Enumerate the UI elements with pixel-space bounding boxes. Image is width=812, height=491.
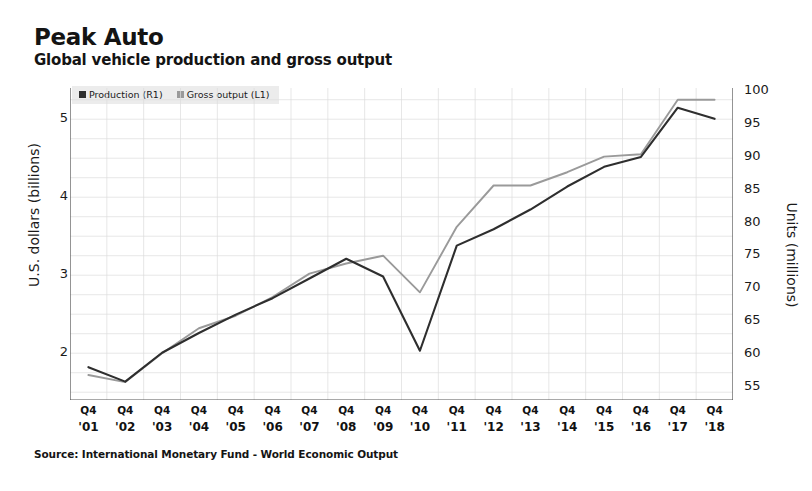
y-tick-left-2: 2 bbox=[60, 344, 68, 359]
x-tick-quarter-02: Q4 bbox=[117, 404, 133, 416]
x-tick-year-15: '15 bbox=[594, 420, 614, 434]
y-tick-right-90: 90 bbox=[744, 148, 761, 163]
source-note: Source: International Monetary Fund - Wo… bbox=[34, 448, 398, 460]
x-tick-year-02: '02 bbox=[115, 420, 135, 434]
x-tick-quarter-09: Q4 bbox=[375, 404, 391, 416]
y-axis-right-label: Units (millions) bbox=[784, 160, 800, 350]
y-tick-right-85: 85 bbox=[744, 181, 761, 196]
x-tick-year-12: '12 bbox=[483, 420, 503, 434]
x-tick-year-09: '09 bbox=[373, 420, 393, 434]
plot-area bbox=[70, 88, 733, 400]
x-tick-quarter-04: Q4 bbox=[191, 404, 207, 416]
x-tick-quarter-16: Q4 bbox=[633, 404, 649, 416]
x-tick-quarter-18: Q4 bbox=[706, 404, 722, 416]
x-tick-year-06: '06 bbox=[262, 420, 282, 434]
x-tick-quarter-12: Q4 bbox=[485, 404, 501, 416]
page-title: Peak Auto bbox=[34, 24, 164, 50]
x-tick-quarter-13: Q4 bbox=[522, 404, 538, 416]
x-tick-quarter-08: Q4 bbox=[338, 404, 354, 416]
x-tick-quarter-11: Q4 bbox=[449, 404, 465, 416]
x-tick-year-11: '11 bbox=[447, 420, 467, 434]
y-tick-right-55: 55 bbox=[744, 378, 761, 393]
y-tick-left-5: 5 bbox=[60, 110, 68, 125]
y-tick-right-100: 100 bbox=[744, 82, 769, 97]
y-tick-right-70: 70 bbox=[744, 279, 761, 294]
x-tick-year-14: '14 bbox=[557, 420, 577, 434]
x-tick-year-10: '10 bbox=[410, 420, 430, 434]
y-tick-left-3: 3 bbox=[60, 266, 68, 281]
x-tick-quarter-15: Q4 bbox=[596, 404, 612, 416]
x-tick-year-13: '13 bbox=[520, 420, 540, 434]
x-tick-quarter-01: Q4 bbox=[80, 404, 96, 416]
x-tick-year-18: '18 bbox=[704, 420, 724, 434]
y-tick-right-75: 75 bbox=[744, 246, 761, 261]
x-tick-quarter-17: Q4 bbox=[670, 404, 686, 416]
x-tick-year-05: '05 bbox=[226, 420, 246, 434]
x-tick-quarter-03: Q4 bbox=[154, 404, 170, 416]
y-tick-right-95: 95 bbox=[744, 115, 761, 130]
chart-container: Peak Auto Global vehicle production and … bbox=[0, 0, 812, 491]
x-tick-year-17: '17 bbox=[668, 420, 688, 434]
y-tick-right-65: 65 bbox=[744, 312, 761, 327]
x-tick-quarter-14: Q4 bbox=[559, 404, 575, 416]
x-tick-quarter-06: Q4 bbox=[264, 404, 280, 416]
y-tick-left-4: 4 bbox=[60, 188, 68, 203]
x-tick-quarter-05: Q4 bbox=[228, 404, 244, 416]
x-tick-quarter-10: Q4 bbox=[412, 404, 428, 416]
x-tick-year-08: '08 bbox=[336, 420, 356, 434]
x-tick-year-01: '01 bbox=[78, 420, 98, 434]
y-tick-right-80: 80 bbox=[744, 214, 761, 229]
y-axis-left-label: U.S. dollars (billions) bbox=[26, 100, 42, 330]
chart-subtitle: Global vehicle production and gross outp… bbox=[34, 51, 392, 69]
x-tick-year-16: '16 bbox=[631, 420, 651, 434]
x-tick-year-07: '07 bbox=[299, 420, 319, 434]
x-tick-year-04: '04 bbox=[189, 420, 209, 434]
x-tick-quarter-07: Q4 bbox=[301, 404, 317, 416]
x-tick-year-03: '03 bbox=[152, 420, 172, 434]
y-tick-right-60: 60 bbox=[744, 345, 761, 360]
